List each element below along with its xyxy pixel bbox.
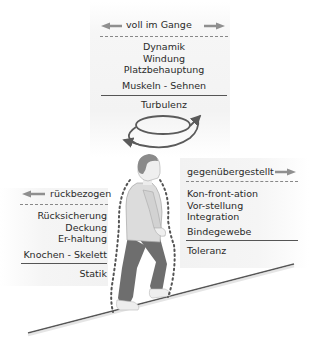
right-header-divider: [186, 181, 298, 182]
right-tissue-label: Bindegewebe: [187, 226, 251, 238]
top-header-label: voll im Gange: [126, 19, 192, 30]
right-tissue-divider: [186, 240, 298, 241]
right-item-vorstellung: Vor-stellung: [187, 200, 243, 212]
top-footer-label: Turbulenz: [100, 99, 228, 111]
arrow-right-icon: [275, 169, 296, 176]
left-header-label: rückbezogen: [50, 188, 111, 199]
arrow-left-icon: [22, 191, 45, 198]
top-item-platzbehauptung: Platzbehauptung: [100, 64, 228, 76]
spiral-arrow-icon: [124, 116, 200, 147]
left-item-deckung: Deckung: [10, 222, 107, 234]
arrow-left-icon: [101, 23, 122, 30]
walking-figure: [116, 154, 170, 310]
right-footer-label: Toleranz: [187, 245, 226, 257]
right-item-konfrontation: Kon-front-ation: [187, 188, 258, 200]
top-item-dynamik: Dynamik: [100, 41, 228, 53]
left-item-erhaltung: Er-haltung: [10, 233, 107, 245]
arrow-right-icon: [204, 23, 225, 30]
left-header-divider: [20, 204, 108, 205]
left-tissue-label: Knochen - Skelett: [10, 249, 107, 261]
top-item-windung: Windung: [100, 53, 228, 65]
right-header-label: gegenübergestellt: [187, 166, 274, 177]
top-tissue-label: Muskeln - Sehnen: [100, 80, 228, 92]
top-header-divider: [100, 36, 228, 37]
left-footer-label: Statik: [10, 268, 107, 280]
right-item-integration: Integration: [187, 211, 239, 223]
left-tissue-divider: [21, 263, 107, 264]
left-item-ruecksicherung: Rücksicherung: [10, 210, 107, 222]
top-tissue-divider: [101, 95, 227, 96]
